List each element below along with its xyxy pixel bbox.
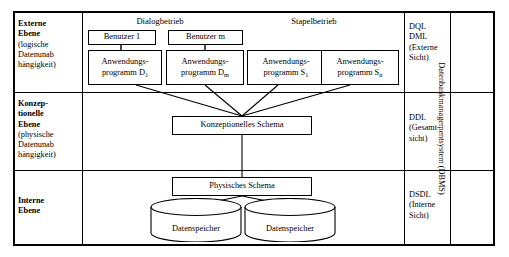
separator-konzeptionelle-interne: [14, 170, 494, 171]
cylinder-shape: [244, 198, 336, 242]
box-label-sub: m: [224, 71, 229, 78]
box-anwendungsprogramm-dm[interactable]: Anwendungs- programm Dm: [166, 50, 244, 85]
level-label-line: Interne: [18, 196, 80, 206]
level-label-externe-ebene: Externe Ebene (logische Datenunab hängig…: [18, 19, 80, 70]
cylinder-label: Datenspeicher: [244, 224, 336, 234]
cylinder-datenspeicher-1[interactable]: Datenspeicher: [150, 198, 242, 242]
box-label-sub: 1: [305, 71, 308, 78]
box-label-line1: Anwendungs-: [337, 57, 384, 66]
level-label-line: Konzep-: [18, 99, 80, 109]
box-label: Physisches Schema: [173, 181, 311, 191]
mode-heading-stapelbetrieb: Stapelbetrieb: [264, 16, 364, 26]
level-label-line: Datenunab: [18, 50, 80, 60]
box-label: Benutzer m: [169, 32, 242, 42]
box-label-line2: programm D: [181, 68, 224, 77]
box-konzeptionelles-schema[interactable]: Konzeptionelles Schema: [172, 116, 312, 135]
box-label-sub: 1: [145, 71, 148, 78]
box-label-line2: programm S: [264, 68, 306, 77]
box-physisches-schema[interactable]: Physisches Schema: [172, 177, 312, 196]
box-anwendungsprogramm-d1[interactable]: Anwendungs- programm D1: [88, 50, 162, 85]
level-label-line: (logische: [18, 40, 80, 50]
cylinder-shape: [150, 198, 242, 242]
level-label-line: Ebene: [18, 120, 80, 130]
level-label-line: (physische: [18, 130, 80, 140]
level-label-line: tionelle: [18, 109, 80, 119]
cylinder-label: Datenspeicher: [150, 224, 242, 234]
box-label-line1: Anwendungs-: [182, 57, 229, 66]
level-label-line: Ebene: [18, 29, 80, 39]
three-schema-architecture-diagram: Externe Ebene (logische Datenunab hängig…: [0, 0, 509, 257]
box-label-line2: programm S: [338, 68, 380, 77]
level-label-interne-ebene: Interne Ebene: [18, 196, 80, 217]
box-label: Konzeptionelles Schema: [173, 120, 311, 130]
box-label-line2: programm D: [102, 68, 145, 77]
dbms-vertical-label: Datenbankmanagementsystem (DBMS): [428, 11, 455, 246]
level-label-line: hängigkeit): [18, 150, 80, 160]
level-label-line: hängigkeit): [18, 60, 80, 70]
mode-heading-dialogbetrieb: Dialogbetrieb: [110, 16, 210, 26]
level-label-line: Externe: [18, 19, 80, 29]
box-label-line1: Anwendungs-: [102, 57, 149, 66]
separator-externe-konzeptionelle: [14, 92, 494, 93]
separator-content-langcol: [404, 12, 405, 245]
level-label-line: Datenunab: [18, 140, 80, 150]
separator-levelcol-content: [82, 12, 83, 245]
box-benutzer-1[interactable]: Benutzer 1: [88, 30, 156, 45]
level-label-konzeptionelle-ebene: Konzep- tionelle Ebene (physische Datenu…: [18, 99, 80, 161]
box-benutzer-m[interactable]: Benutzer m: [168, 30, 243, 45]
box-label-line1: Anwendungs-: [263, 57, 310, 66]
box-label: Benutzer 1: [89, 32, 155, 42]
box-anwendungsprogramm-s1[interactable]: Anwendungs- programm S1: [247, 50, 325, 85]
cylinder-datenspeicher-2[interactable]: Datenspeicher: [244, 198, 336, 242]
box-anwendungsprogramm-sn[interactable]: Anwendungs- programm Sn: [321, 50, 399, 85]
box-label-sub: n: [379, 71, 382, 78]
level-label-line: Ebene: [18, 206, 80, 216]
